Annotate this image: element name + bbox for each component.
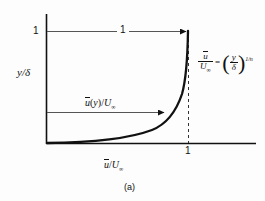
x-axis-label: u/U∞ bbox=[104, 160, 123, 172]
equation-lhs-numerator: u bbox=[198, 52, 213, 61]
panel-caption: (a) bbox=[124, 183, 135, 192]
x-label-tail: /U∞ bbox=[109, 159, 123, 170]
figure-panel-a: y/δ 1 1 1 u(y)/U∞ u U∞ = ( y δ )1/n u/U∞… bbox=[0, 0, 265, 201]
equation-lhs-fraction: u U∞ bbox=[198, 52, 213, 73]
y-axis-label: y/δ bbox=[17, 67, 30, 78]
mid-label-tail: (y)/U∞ bbox=[90, 97, 115, 108]
equation-rhs-fraction: y δ bbox=[230, 53, 238, 72]
x-axis-tick-label-1: 1 bbox=[185, 146, 191, 156]
unity-arrow-label: 1 bbox=[117, 25, 129, 35]
plot-svg bbox=[0, 0, 265, 201]
equation-rhs-denominator: δ bbox=[230, 62, 238, 72]
equation-lhs-denominator: U∞ bbox=[198, 61, 213, 73]
y-axis-tick-label-1: 1 bbox=[33, 26, 39, 36]
local-velocity-arrow-label: u(y)/U∞ bbox=[83, 98, 117, 110]
equation-equals-sign: = bbox=[215, 58, 220, 67]
equation-rhs-group: ( y δ )1/n bbox=[222, 53, 253, 73]
u-bar-glyph: u bbox=[85, 98, 90, 108]
equation-rhs-numerator: y bbox=[230, 53, 238, 62]
x-label-u-bar-glyph: u bbox=[104, 160, 109, 170]
profile-equation: u U∞ = ( y δ )1/n bbox=[198, 52, 253, 73]
equation-exponent: 1/n bbox=[245, 55, 253, 61]
velocity-profile-curve bbox=[47, 31, 188, 143]
left-paren: ( bbox=[222, 53, 229, 73]
